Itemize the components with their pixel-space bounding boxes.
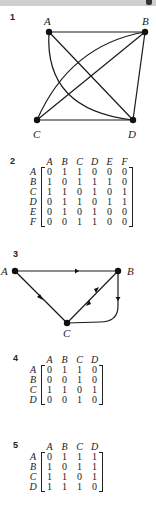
matrix-bracket <box>41 365 45 405</box>
matrix-bracket <box>99 365 103 405</box>
matrix-bracket <box>129 167 133 227</box>
matrix-cell: 0 <box>102 217 117 227</box>
adjacency-matrix-5: A B C D A B C D 0111 1011 1101 1110 <box>26 442 102 492</box>
matrix-cell: 1 <box>72 395 87 405</box>
section-number-4: 4 <box>13 353 18 363</box>
matrix-cell: 1 <box>87 217 102 227</box>
node-label-a: A <box>0 265 8 277</box>
matrix-cell: 0 <box>57 395 72 405</box>
matrix-cell: 0 <box>57 217 72 227</box>
row-label: D <box>26 395 40 405</box>
row-label: D <box>26 482 40 492</box>
matrix-cell: 1 <box>72 217 87 227</box>
node-label-a: A <box>43 15 51 27</box>
matrix-bracket <box>41 167 45 227</box>
node-label-c: C <box>63 327 71 338</box>
matrix-cell: 1 <box>57 482 72 492</box>
speaker-icon <box>146 0 152 5</box>
matrix-bracket <box>99 452 103 492</box>
section-number-2: 2 <box>10 156 15 166</box>
node-label-b: B <box>142 15 149 27</box>
graph-1: A B C D <box>0 10 156 155</box>
section-number-5: 5 <box>13 440 18 450</box>
node-label-d: D <box>127 128 136 140</box>
row-label: F <box>26 217 40 227</box>
adjacency-matrix-2: A B C D E F A B C D E F 011000 101110 11… <box>26 157 132 227</box>
graph-3: A B C <box>0 258 156 338</box>
node-label-c: C <box>33 128 41 140</box>
matrix-cell: 1 <box>72 482 87 492</box>
header-bar <box>0 0 156 6</box>
adjacency-matrix-4: A B C D A B C D 0110 0010 1101 0010 <box>26 355 102 405</box>
matrix-bracket <box>41 452 45 492</box>
node-label-b: B <box>127 265 134 277</box>
